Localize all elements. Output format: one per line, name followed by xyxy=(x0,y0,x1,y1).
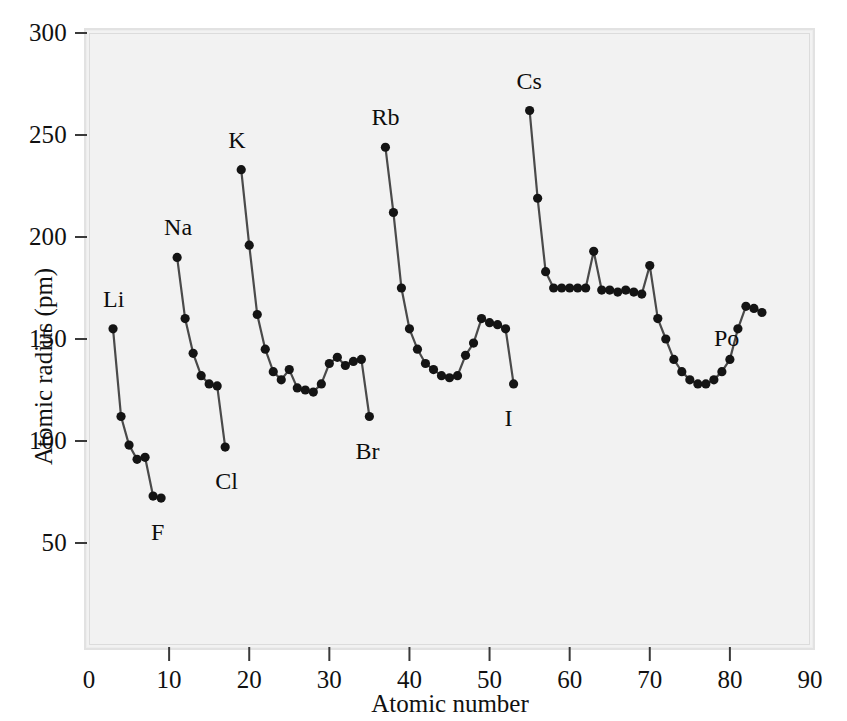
point-label-cl: Cl xyxy=(215,469,238,493)
x-tick-label: 90 xyxy=(780,667,840,692)
y-axis-title: Atomic radius (pm) xyxy=(30,268,58,465)
point-label-po: Po xyxy=(714,326,739,350)
point-label-na: Na xyxy=(164,215,192,239)
plot-frame-inner-border xyxy=(89,33,810,645)
point-label-f: F xyxy=(151,520,164,544)
x-tick-label: 60 xyxy=(540,667,600,692)
x-tick-label: 0 xyxy=(59,667,119,692)
point-label-br: Br xyxy=(355,439,379,463)
plot-frame xyxy=(84,28,815,650)
atomic-radius-figure: 50100150200250300 0102030405060708090 Li… xyxy=(0,0,847,721)
point-label-cs: Cs xyxy=(517,69,542,93)
y-tick-label: 200 xyxy=(7,224,67,249)
x-tick-label: 20 xyxy=(219,667,279,692)
x-tick-label: 80 xyxy=(700,667,760,692)
y-tick-label: 50 xyxy=(7,530,67,555)
point-label-k: K xyxy=(228,128,245,152)
x-tick-label: 50 xyxy=(460,667,520,692)
x-tick-label: 70 xyxy=(620,667,680,692)
point-label-rb: Rb xyxy=(371,105,399,129)
y-tick-label: 300 xyxy=(7,20,67,45)
y-tick-label: 250 xyxy=(7,122,67,147)
point-label-i: I xyxy=(505,406,513,430)
point-label-li: Li xyxy=(103,287,124,311)
x-tick-label: 30 xyxy=(299,667,359,692)
x-tick-label: 10 xyxy=(139,667,199,692)
x-axis-title: Atomic number xyxy=(250,690,650,718)
x-tick-label: 40 xyxy=(379,667,439,692)
